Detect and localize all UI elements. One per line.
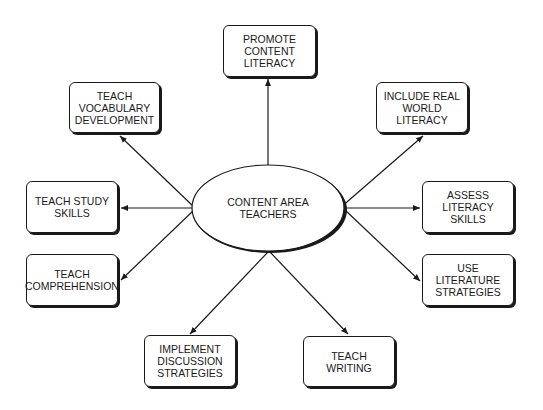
edge-center-to-vocab: [120, 136, 194, 207]
node-teach-writing: TEACH WRITING: [303, 336, 395, 387]
node-include-real-world-literacy: INCLUDE REAL WORLD LITERACY: [376, 82, 468, 133]
node-assess-literacy-skills: ASSESS LITERACY SKILLS: [422, 181, 514, 233]
edge-center-to-writing: [270, 252, 348, 334]
node-implement-discussion-strategies: IMPLEMENT DISCUSSION STRATEGIES: [144, 335, 236, 387]
node-teach-comprehension: TEACH COMPREHENSION: [26, 254, 118, 306]
node-teach-vocabulary-development: TEACH VOCABULARY DEVELOPMENT: [69, 82, 160, 133]
center-node-label: CONTENT AREA TEACHERS: [200, 188, 336, 228]
edge-center-to-comprehension: [121, 210, 194, 280]
node-teach-study-skills: TEACH STUDY SKILLS: [26, 181, 118, 233]
node-promote-content-literacy: PROMOTE CONTENT LITERACY: [223, 25, 316, 77]
edge-center-to-literature: [345, 210, 420, 281]
node-use-literature-strategies: USE LITERATURE STRATEGIES: [422, 254, 514, 306]
edge-center-to-discussion: [190, 252, 268, 334]
edge-center-to-realworld: [340, 136, 423, 208]
